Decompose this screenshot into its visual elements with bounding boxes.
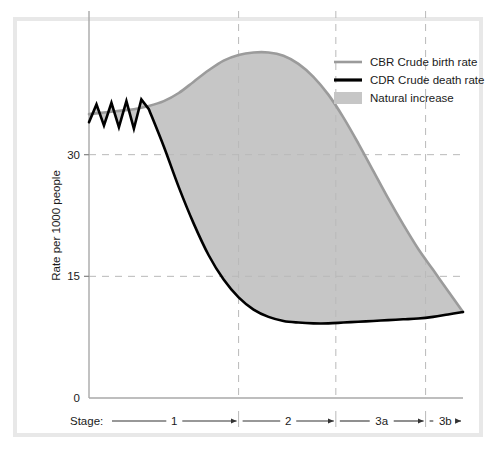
figure-root: 01530Rate per 1000 peopleStage:123a3bCBR… (0, 0, 499, 466)
y-axis-title: Rate per 1000 people (50, 170, 62, 281)
y-tick-label: 30 (67, 149, 80, 161)
legend-label-cbr: CBR Crude birth rate (370, 56, 477, 68)
stage-axis-label: Stage: (70, 415, 103, 427)
y-tick-label: 15 (67, 270, 80, 282)
stage-label: 1 (171, 415, 177, 427)
stage-label: 3a (375, 415, 388, 427)
legend-label-cdr: CDR Crude death rate (370, 74, 484, 86)
chart-canvas: 01530Rate per 1000 peopleStage:123a3bCBR… (0, 0, 499, 466)
legend-swatch-natural_increase (334, 92, 362, 104)
legend-label-natural_increase: Natural increase (370, 92, 454, 104)
y-tick-label: 0 (74, 392, 80, 404)
stage-label: 3b (439, 415, 452, 427)
stage-label: 2 (285, 415, 291, 427)
